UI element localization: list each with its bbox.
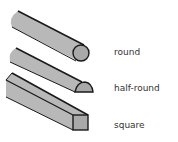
bar-stock-shapes-diagram: round half-round square <box>0 0 178 142</box>
diagram-canvas <box>0 0 178 142</box>
label-half-round: half-round <box>114 84 160 93</box>
label-round: round <box>114 48 140 57</box>
label-square: square <box>114 121 145 130</box>
